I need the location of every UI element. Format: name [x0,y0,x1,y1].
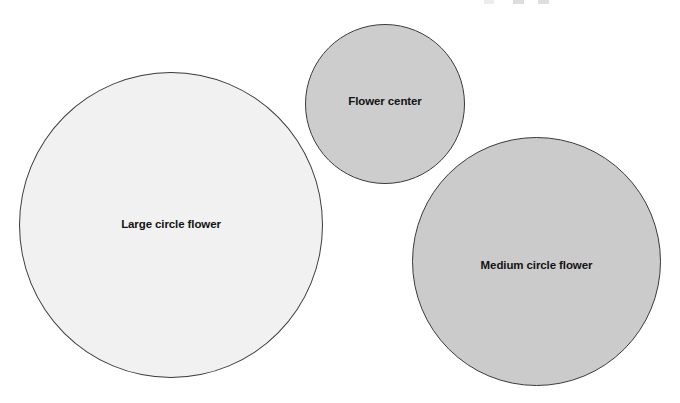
medium-circle-flower-shape[interactable]: Medium circle flower [412,137,661,386]
clipped-text-artifact [538,0,549,4]
clipped-text-artifact [513,0,524,4]
clipped-text-artifact [484,0,494,4]
medium-circle-flower-label: Medium circle flower [413,260,660,272]
diagram-canvas: Large circle flower Flower center Medium… [0,0,680,403]
flower-center-label: Flower center [306,96,464,108]
large-circle-flower-label: Large circle flower [20,219,322,231]
flower-center-shape[interactable]: Flower center [305,24,465,184]
large-circle-flower-shape[interactable]: Large circle flower [19,72,323,378]
